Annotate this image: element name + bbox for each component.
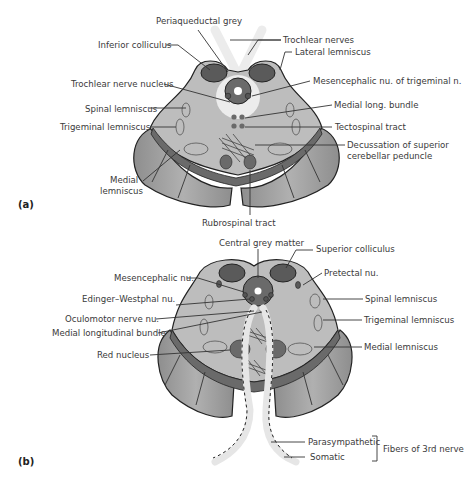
label-spinal-lemniscus-a: Spinal lemniscus	[85, 104, 158, 114]
panel-label-b: (b)	[18, 456, 34, 467]
label-medial-longitudinal-bundle: Medial longitudinal bundle	[52, 328, 166, 338]
superior-colliculus-right	[270, 264, 296, 282]
label-red-nucleus: Red nucleus	[97, 350, 150, 360]
inferior-colliculus-left	[201, 64, 227, 82]
label-pretectal-nu: Pretectal nu.	[324, 268, 378, 278]
label-medial-long-bundle: Medial long. bundle	[334, 100, 418, 110]
label-trochlear-nerve-nucleus: Trochlear nerve nucleus	[70, 79, 174, 89]
label-medial-lemniscus-a-line2: lemniscus	[100, 186, 144, 196]
label-trigeminal-lemniscus-b: Trigeminal lemniscus	[363, 315, 455, 325]
label-medial-lemniscus-a-line1: Medial	[110, 175, 138, 185]
label-decussation-line2: cerebellar peduncle	[347, 151, 432, 161]
midbrain-cross-section-diagram: Periaqueductal grey Inferior colliculus …	[0, 0, 469, 477]
label-decussation-line1: Decussation of superior	[347, 140, 449, 150]
label-fibers-of-3rd-nerve: Fibers of 3rd nerve	[383, 444, 464, 454]
label-spinal-lemniscus-b: Spinal lemniscus	[365, 294, 438, 304]
label-mesencephalic-nu: Mesencephalic nu.	[114, 273, 194, 283]
label-edinger-westphal-nu: Edinger–Westphal nu.	[82, 294, 175, 304]
label-inferior-colliculus: Inferior colliculus	[98, 40, 172, 50]
label-parasympathetic: Parasympathetic	[308, 437, 380, 447]
label-tectospinal-tract: Tectospinal tract	[334, 122, 406, 132]
label-somatic: Somatic	[310, 452, 345, 462]
panel-b: Central grey matter Superior colliculus …	[18, 238, 464, 467]
panel-a: Periaqueductal grey Inferior colliculus …	[18, 16, 462, 228]
label-superior-colliculus: Superior colliculus	[316, 244, 395, 254]
label-mesencephalic-nu-trigeminal: Mesencephalic nu. of trigeminal n.	[313, 76, 462, 86]
aqueduct-a	[234, 87, 242, 95]
label-oculomotor-nerve-nu: Oculomotor nerve nu.	[65, 314, 159, 324]
label-central-grey-matter: Central grey matter	[219, 238, 305, 248]
panel-label-a: (a)	[18, 199, 34, 210]
label-trochlear-nerves: Trochlear nerves	[282, 35, 355, 45]
label-rubrospinal-tract: Rubrospinal tract	[202, 218, 276, 228]
aqueduct-b	[255, 288, 262, 295]
label-periaqueductal-grey: Periaqueductal grey	[156, 16, 242, 26]
label-medial-lemniscus-b: Medial lemniscus	[364, 342, 438, 352]
superior-colliculus-left	[219, 264, 245, 282]
label-trigeminal-lemniscus-a: Trigeminal lemniscus	[59, 122, 151, 132]
label-lateral-lemniscus: Lateral lemniscus	[295, 47, 371, 57]
inferior-colliculus-right	[249, 64, 275, 82]
